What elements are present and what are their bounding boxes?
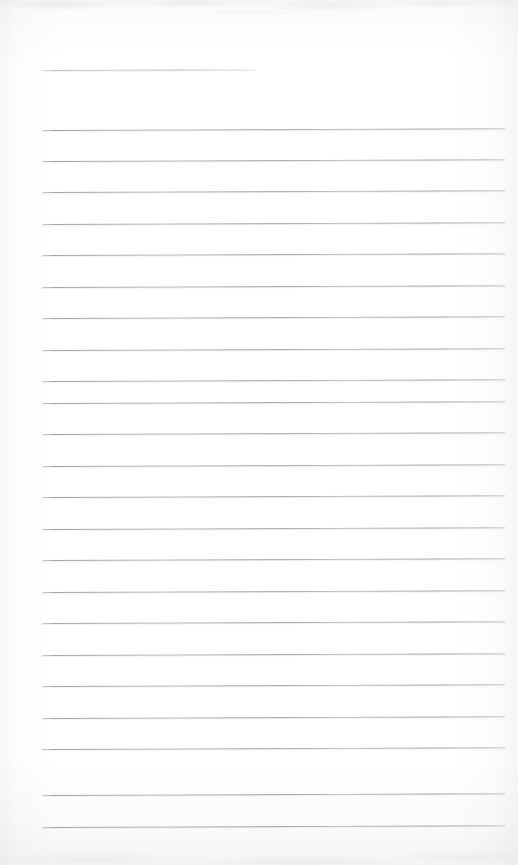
scanned-page (0, 0, 518, 865)
paper-background (0, 0, 518, 865)
